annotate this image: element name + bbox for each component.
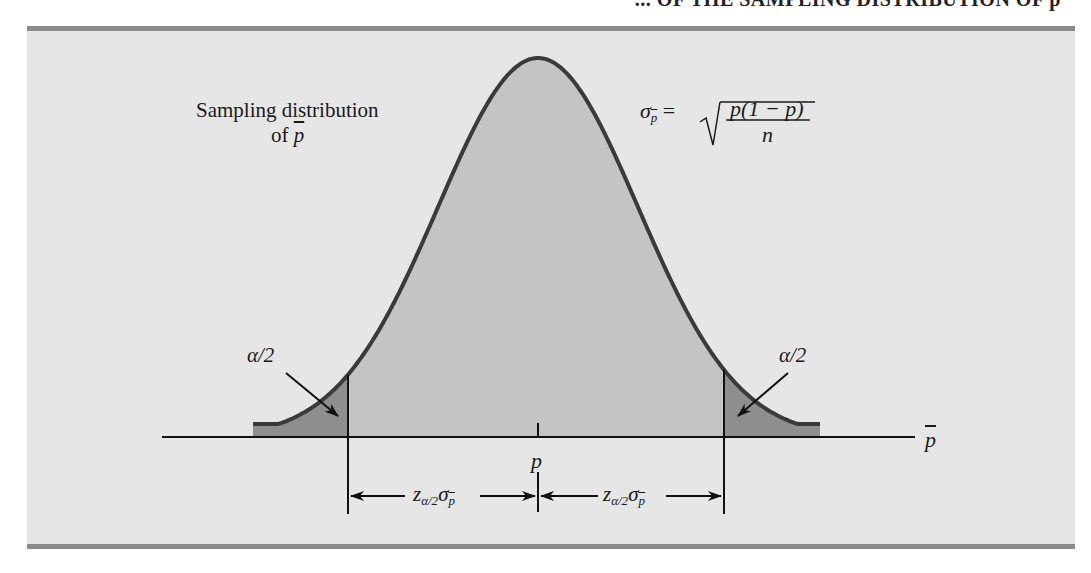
- sigma-subscript: p: [448, 493, 455, 508]
- sampling-label-line2: of p: [271, 123, 304, 148]
- formula-denominator: n: [762, 122, 773, 148]
- center-p-label: p: [531, 448, 542, 474]
- sampling-label-line1: Sampling distribution: [196, 98, 379, 123]
- margin-label-right: zα/2σp: [603, 482, 645, 509]
- equals-sign: =: [663, 98, 675, 123]
- margin-label-left: zα/2σp: [413, 482, 455, 509]
- formula-numerator: p(1 − p): [730, 96, 804, 122]
- sigma-symbol: σ: [438, 482, 448, 506]
- sampling-of-text: of: [271, 123, 294, 147]
- p-bar-symbol: p: [294, 123, 305, 147]
- z-symbol: z: [603, 482, 611, 506]
- alpha-left-label: α/2: [247, 343, 274, 368]
- axis-label: p: [925, 427, 936, 453]
- sqrt-sign: [700, 102, 720, 145]
- normal-curve-figure: [0, 0, 1091, 573]
- sigma-subscript: p: [651, 110, 658, 125]
- sigma-subscript: p: [638, 493, 645, 508]
- sigma-symbol: σ: [640, 98, 651, 123]
- sigma-label: σp =: [640, 98, 675, 126]
- alpha-right-label: α/2: [779, 343, 806, 368]
- sigma-symbol: σ: [628, 482, 638, 506]
- z-symbol: z: [413, 482, 421, 506]
- z-subscript: α/2: [421, 493, 438, 508]
- z-subscript: α/2: [611, 493, 628, 508]
- right-tail-area: [724, 370, 820, 437]
